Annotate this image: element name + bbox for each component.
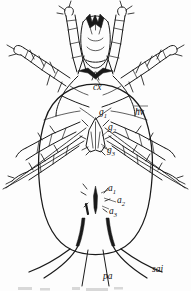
leg-left-three (16, 122, 80, 160)
caudal-setae (29, 218, 162, 286)
label-g1: g1 (99, 107, 107, 119)
label-a3: a3 (109, 206, 118, 218)
leg-right-two (121, 45, 184, 92)
label-a1: a1 (108, 183, 116, 195)
leg-right-three (111, 122, 175, 160)
figure-root: cx g1 g2 g3 hv a1 a2 a3 pa sai (0, 0, 191, 291)
label-hv: hv (135, 107, 145, 117)
leg-left-two (7, 45, 70, 92)
label-sai: sai (152, 264, 163, 274)
label-pa: pa (102, 271, 113, 281)
label-cx: cx (93, 82, 102, 92)
mite-ventral-illustration: cx g1 g2 g3 hv a1 a2 a3 pa sai (0, 0, 191, 291)
scan-artifact (18, 287, 123, 291)
label-a2: a2 (117, 195, 126, 207)
gnathosoma (78, 14, 113, 79)
leg-pair-one (57, 1, 134, 72)
leg-right-one (105, 1, 134, 72)
label-hv-group: hv (134, 106, 148, 117)
leg-right-four (105, 128, 188, 189)
label-g3: g3 (107, 145, 116, 157)
leg-left-one (57, 1, 86, 72)
leg-left-four (3, 128, 86, 189)
anal-region (81, 184, 110, 214)
